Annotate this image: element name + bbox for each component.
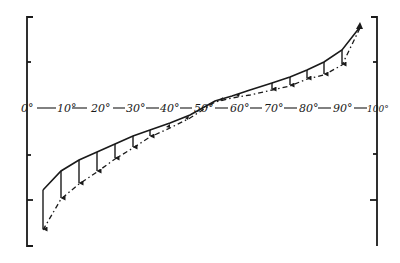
dashed-curve [43, 28, 360, 230]
x-tick-label: 10° [57, 102, 77, 115]
left-axis [27, 17, 33, 246]
chart: 0° 10° 20° 30° 40° 50° 60° 70° 80° 90° 1… [0, 0, 400, 263]
end-marker [356, 22, 363, 29]
x-tick-label: 30° [126, 102, 146, 115]
x-tick-label: 20° [90, 102, 111, 115]
x-tick-label: 60° [230, 102, 250, 115]
x-tick-label: 100° [367, 104, 389, 114]
x-axis: 0° 10° 20° 30° 40° 50° 60° 70° 80° 90° 1… [21, 102, 389, 115]
right-axis [370, 17, 377, 246]
x-tick-label: 0° [21, 102, 34, 115]
x-tick-label: 80° [299, 102, 319, 115]
difference-arrows [43, 50, 342, 229]
x-tick-label: 90° [333, 102, 353, 115]
x-tick-label: 40° [159, 102, 180, 115]
x-tick-label: 70° [264, 102, 284, 115]
